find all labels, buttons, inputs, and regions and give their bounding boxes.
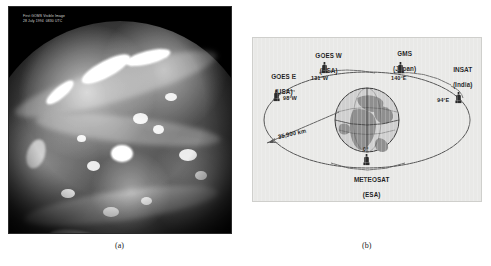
satellite-icon-goes-e xyxy=(272,90,281,102)
satellite-label-meteosat: METEOSAT (ESA) xyxy=(337,169,399,202)
satellite-longitude-gms: 140°E xyxy=(391,75,407,81)
satellite-longitude-meteosat: 0° xyxy=(363,146,368,152)
figure-caption-a: (a) xyxy=(115,241,124,250)
satellite-operator-meteosat: (ESA) xyxy=(363,191,381,198)
satellite-operator-insat: (India) xyxy=(453,81,473,88)
satellite-icon-meteosat xyxy=(362,154,371,166)
satellite-image-overlay-caption: First GOMS Visible Image 28 July 1994 08… xyxy=(23,14,65,24)
satellite-longitude-goes-e: 98°W xyxy=(283,95,297,101)
satellite-icon-gms xyxy=(396,62,405,74)
geostationary-orbit-diagram: GOES E (USA) 98°W GOES W (USA) 131°W GMS… xyxy=(252,37,482,202)
satellite-icon-goes-w xyxy=(320,62,329,74)
satellite-image-panel: First GOMS Visible Image 28 July 1994 08… xyxy=(8,6,232,234)
satellite-name-goes-e: GOES E xyxy=(271,73,296,80)
satellite-name-gms: GMS xyxy=(397,50,412,57)
satellite-longitude-goes-w: 131°W xyxy=(311,75,328,81)
figure-caption-b: (b) xyxy=(362,241,371,250)
satellite-name-insat: INSAT xyxy=(453,66,472,73)
earth-full-disk-image xyxy=(8,21,232,234)
satellite-name-meteosat: METEOSAT xyxy=(354,176,389,183)
satellite-icon-insat xyxy=(454,92,463,104)
satellite-label-insat: INSAT (India) xyxy=(435,59,482,96)
earth-globe xyxy=(335,88,399,152)
satellite-name-goes-w: GOES W xyxy=(315,52,342,59)
satellite-longitude-insat: 94°E xyxy=(437,97,449,103)
